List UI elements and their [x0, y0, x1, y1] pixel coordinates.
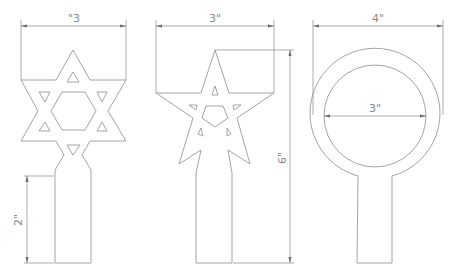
inner-diameter-dimension: 3" — [324, 102, 426, 118]
technical-drawing: "3 2" 3" — [0, 0, 454, 280]
triangle-hole-top — [67, 72, 79, 82]
triangle-hole-top — [212, 86, 218, 95]
width-label: 3" — [209, 12, 221, 25]
pentagram-outline — [156, 50, 274, 263]
triangle-hole-left — [189, 105, 197, 110]
stem-height-dimension: 2" — [12, 176, 54, 263]
triangle-hole-upper-right — [97, 92, 107, 102]
hexagon-hole — [51, 92, 96, 130]
outer-diameter-label: 4" — [372, 12, 384, 25]
inner-diameter-label: 3" — [369, 102, 381, 115]
ring-outer-outline — [310, 48, 440, 263]
star-of-david-template: "3 2" — [12, 12, 126, 263]
ring-template: 4" 3" — [310, 12, 443, 263]
height-dimension: 6" — [215, 50, 294, 263]
five-point-star-template: 3" 6" — [156, 12, 294, 263]
triangle-hole-upper-left — [39, 92, 50, 102]
width-label: "3 — [68, 12, 80, 25]
triangle-hole-lower-right — [97, 122, 107, 131]
width-dimension: 3" — [156, 12, 274, 93]
triangle-hole-bottom — [67, 145, 80, 155]
pentagon-hole — [202, 106, 228, 127]
triangle-hole-lower-left — [39, 122, 50, 131]
triangle-hole-lower-right — [227, 128, 231, 136]
triangle-hole-lower-left — [198, 128, 203, 136]
stem-height-label: 2" — [12, 214, 25, 226]
triangle-hole-right — [233, 105, 241, 110]
width-dimension: "3 — [21, 12, 126, 80]
height-label: 6" — [276, 152, 289, 164]
